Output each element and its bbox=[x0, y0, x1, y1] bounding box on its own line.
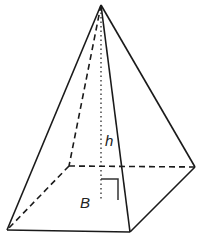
hidden-edge-back-left-front-left bbox=[7, 166, 69, 230]
right-angle-marker bbox=[101, 179, 118, 200]
base-label: B bbox=[80, 194, 90, 211]
edge-apex-back-right bbox=[101, 5, 195, 167]
edge-front-right-back-right bbox=[130, 167, 195, 232]
hidden-edge-apex-back-left bbox=[69, 5, 101, 166]
edge-front-left-front-right bbox=[7, 230, 130, 232]
height-label: h bbox=[105, 132, 113, 149]
pyramid-diagram: h B bbox=[0, 0, 200, 237]
edge-apex-front-right bbox=[101, 5, 130, 232]
hidden-edge-back-left-back-right bbox=[69, 166, 195, 167]
